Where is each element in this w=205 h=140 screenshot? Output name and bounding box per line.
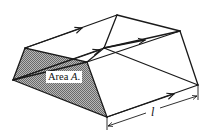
inner-vertical-edge [104, 15, 117, 48]
flow-arrow-bottom [107, 94, 174, 117]
top-front-edge [87, 31, 180, 62]
inner-ridge-front [87, 48, 104, 62]
length-dimension-right [160, 96, 197, 108]
flow-arrow-inner [104, 40, 145, 48]
top-back-edge [117, 15, 180, 31]
flow-arrow-top [25, 28, 82, 48]
inner-diagonal [104, 48, 198, 85]
prism-diagram [0, 0, 205, 140]
length-label: l [149, 106, 156, 118]
back-right-edge [180, 31, 198, 85]
area-label: Area A. [46, 71, 82, 83]
